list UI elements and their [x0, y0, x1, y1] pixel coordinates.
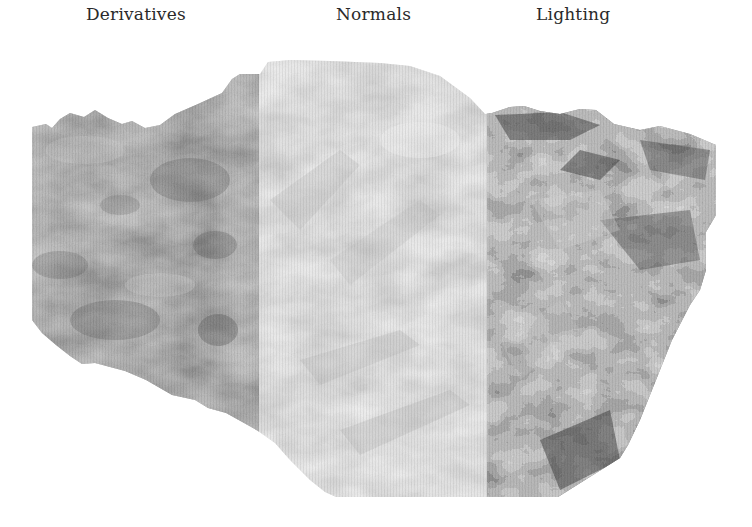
terrain-comparison-figure: Derivatives Normals Lighting	[0, 0, 752, 527]
terrain-render	[0, 0, 752, 527]
